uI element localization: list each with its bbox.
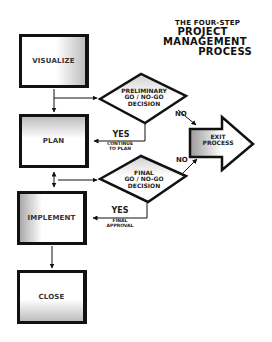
- preliminary-yes-label: YES: [109, 131, 133, 139]
- final-yes-label: YES: [108, 207, 132, 215]
- preliminary-decision-text: PRELIMINARY GO / NO-GO DECISION: [113, 88, 175, 107]
- preliminary-line-3: DECISION: [113, 101, 175, 107]
- preliminary-no-label: NO: [175, 111, 187, 118]
- step-implement-label: IMPLEMENT: [27, 214, 75, 222]
- final-no-label: NO: [176, 157, 188, 164]
- final-line-3: DECISION: [113, 183, 175, 189]
- exit-line-2: PROCESS: [198, 140, 238, 146]
- step-close-label: CLOSE: [38, 293, 64, 301]
- step-visualize: VISUALIZE: [19, 34, 89, 88]
- step-close: CLOSE: [17, 270, 87, 324]
- final-yes-note: FINAL APPROVAL: [100, 219, 140, 228]
- exit-process-text: EXIT PROCESS: [198, 134, 238, 147]
- step-plan: PLAN: [19, 114, 89, 168]
- final-yes-note-2: APPROVAL: [100, 224, 140, 229]
- step-visualize-label: VISUALIZE: [32, 57, 75, 65]
- preliminary-yes-note: CONTINUE TO PLAN: [100, 142, 140, 151]
- step-implement: IMPLEMENT: [17, 191, 87, 245]
- preliminary-yes-note-2: TO PLAN: [100, 147, 140, 152]
- step-plan-label: PLAN: [43, 137, 65, 145]
- final-decision-text: FINAL GO / NO-GO DECISION: [113, 170, 175, 189]
